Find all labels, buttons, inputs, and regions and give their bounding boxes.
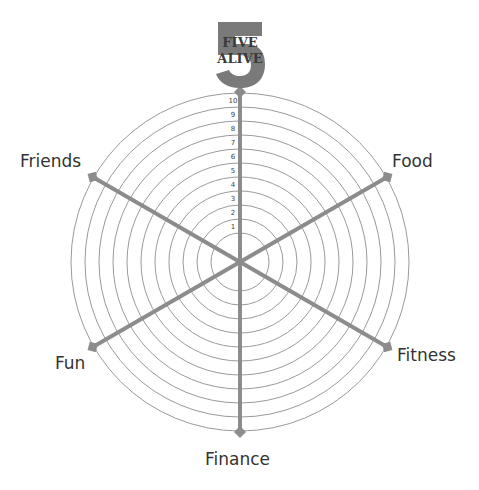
scale-label: 7 — [231, 139, 235, 147]
logo-line-1: FIVE — [211, 36, 269, 49]
scale-label: 8 — [231, 125, 235, 133]
scale-label: 9 — [231, 111, 235, 119]
category-label-fun: Fun — [55, 353, 85, 373]
spoke-end-marker-icon — [85, 169, 101, 185]
scale-label: 4 — [231, 181, 236, 189]
scale-label: 3 — [231, 195, 235, 203]
spoke-end-marker-icon — [85, 339, 101, 355]
five-alive-logo: FIVE ALIVE — [211, 22, 269, 90]
category-label-fitness: Fitness — [397, 345, 456, 365]
scale-label: 10 — [229, 97, 238, 105]
category-label-food: Food — [392, 151, 433, 171]
category-label-finance: Finance — [205, 449, 270, 469]
scale-label: 6 — [231, 153, 236, 161]
spoke-end-marker-icon — [379, 169, 395, 185]
scale-label: 5 — [231, 167, 235, 175]
spoke-fitness — [240, 262, 387, 347]
logo-line-2: ALIVE — [211, 52, 269, 65]
spoke-end-marker-icon — [234, 426, 246, 438]
spoke-friends — [93, 177, 240, 262]
scale-label: 1 — [231, 223, 235, 231]
spoke-food — [240, 177, 387, 262]
spoke-end-marker-icon — [379, 339, 395, 355]
spoke-fun — [93, 262, 240, 347]
category-label-friends: Friends — [20, 151, 81, 171]
scale-label: 2 — [231, 209, 235, 217]
